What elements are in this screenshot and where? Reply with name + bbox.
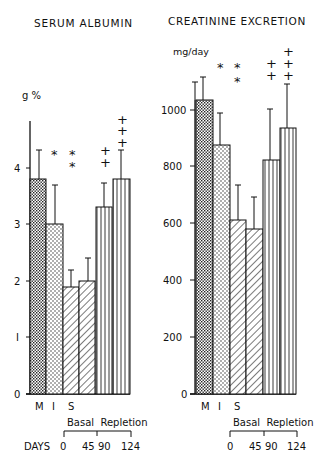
bar-repletion-2 bbox=[113, 179, 130, 394]
days-label: DAYS bbox=[24, 441, 50, 452]
svg-text:400: 400 bbox=[163, 275, 182, 286]
svg-text:45: 45 bbox=[249, 441, 262, 452]
bar-repletion-1 bbox=[96, 207, 112, 394]
svg-text:200: 200 bbox=[163, 332, 182, 343]
svg-text:45: 45 bbox=[82, 441, 95, 452]
svg-text:I: I bbox=[16, 332, 19, 343]
right-title: CREATININE EXCRETION bbox=[168, 15, 306, 27]
left-significance: * * * + + + + + bbox=[51, 112, 128, 174]
svg-text:M: M bbox=[35, 401, 44, 412]
left-y-ticks: 0 I 2 3 4 bbox=[14, 163, 30, 400]
bar-M bbox=[196, 100, 213, 394]
left-bars bbox=[30, 179, 130, 394]
svg-text:2: 2 bbox=[14, 276, 20, 287]
svg-text:I: I bbox=[218, 401, 221, 412]
bar-repletion-1 bbox=[263, 160, 280, 394]
bar-M bbox=[30, 179, 46, 394]
svg-text:4: 4 bbox=[14, 163, 20, 174]
bar-S bbox=[63, 287, 79, 394]
svg-text:124: 124 bbox=[287, 441, 306, 452]
figure: SERUM ALBUMIN g % 0 I 2 3 4 bbox=[0, 0, 323, 462]
svg-text:1000: 1000 bbox=[161, 105, 186, 116]
svg-text:S: S bbox=[234, 401, 240, 412]
svg-text:800: 800 bbox=[163, 161, 182, 172]
left-unit: g % bbox=[22, 90, 41, 101]
right-y-ticks: 0 200 400 600 800 1000 bbox=[161, 105, 195, 400]
right-bars bbox=[196, 100, 296, 394]
svg-text:90: 90 bbox=[98, 441, 111, 452]
star-icon: * bbox=[234, 74, 241, 89]
star-icon: * bbox=[217, 60, 224, 75]
bar-basal bbox=[246, 229, 263, 394]
star-icon: * bbox=[51, 147, 58, 162]
bar-repletion-2 bbox=[280, 128, 296, 394]
star-icon: * bbox=[69, 159, 76, 174]
bar-I bbox=[46, 224, 63, 394]
svg-text:0: 0 bbox=[227, 441, 233, 452]
right-significance: * * * + + + + + bbox=[217, 44, 294, 89]
star-icon: * bbox=[234, 60, 241, 75]
creatinine-excretion-chart: CREATININE EXCRETION mg/day 0 200 400 60… bbox=[161, 15, 314, 452]
bar-basal bbox=[79, 281, 95, 394]
bar-I bbox=[213, 145, 230, 394]
plus-icon: + bbox=[266, 68, 277, 83]
svg-text:600: 600 bbox=[163, 218, 182, 229]
svg-text:0: 0 bbox=[14, 389, 20, 400]
plus-icon: + bbox=[117, 135, 128, 150]
svg-text:S: S bbox=[68, 401, 74, 412]
serum-albumin-chart: SERUM ALBUMIN g % 0 I 2 3 4 bbox=[14, 17, 148, 452]
right-group-label: Basal Repletion bbox=[233, 417, 314, 428]
plus-icon: + bbox=[283, 68, 294, 83]
left-title: SERUM ALBUMIN bbox=[34, 17, 133, 29]
svg-text:124: 124 bbox=[121, 441, 140, 452]
right-unit: mg/day bbox=[173, 46, 209, 57]
svg-text:0: 0 bbox=[181, 389, 187, 400]
left-group-label: Basal Repletion bbox=[67, 417, 148, 428]
plus-icon: + bbox=[100, 155, 111, 170]
svg-text:0: 0 bbox=[60, 441, 66, 452]
bar-S bbox=[230, 220, 246, 394]
svg-text:I: I bbox=[52, 401, 55, 412]
svg-text:M: M bbox=[201, 401, 210, 412]
svg-text:90: 90 bbox=[265, 441, 278, 452]
svg-text:3: 3 bbox=[14, 219, 20, 230]
